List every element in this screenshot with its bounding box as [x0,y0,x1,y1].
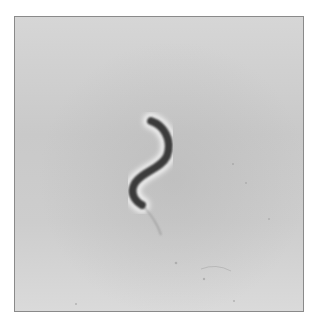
micrograph-frame [14,16,304,312]
micrograph [15,17,304,312]
debris-specks [75,163,270,305]
fiber [201,266,231,271]
